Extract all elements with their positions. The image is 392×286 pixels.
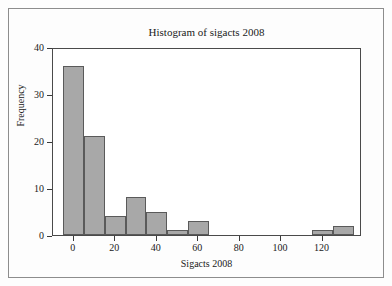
histogram-bar — [146, 212, 167, 236]
histogram-figure: Histogram of sigacts 2008 010203040 0204… — [0, 0, 392, 286]
x-axis-tick-label: 60 — [177, 243, 217, 253]
y-axis-tick-mark — [47, 236, 52, 237]
x-axis-tick-mark — [239, 236, 240, 241]
y-axis-tick-mark — [47, 142, 52, 143]
y-axis-label: Frequency — [15, 46, 26, 166]
y-axis-tick-mark — [47, 189, 52, 190]
histogram-bar — [333, 226, 354, 235]
x-axis-tick-label: 100 — [260, 243, 300, 253]
x-axis-tick-mark — [280, 236, 281, 241]
x-axis-tick-label: 0 — [53, 243, 93, 253]
y-axis-tick-label: 10 — [4, 184, 44, 194]
y-axis-tick-mark — [47, 95, 52, 96]
y-axis-tick-mark — [47, 48, 52, 49]
histogram-bar — [188, 221, 209, 235]
histogram-bar — [126, 197, 147, 235]
x-axis-label: Sigacts 2008 — [52, 258, 361, 269]
x-axis-tick-label: 80 — [219, 243, 259, 253]
x-axis-tick-mark — [156, 236, 157, 241]
x-axis-tick-label: 40 — [136, 243, 176, 253]
x-axis-tick-label: 20 — [94, 243, 134, 253]
histogram-bar — [312, 230, 333, 235]
x-axis-tick-mark — [322, 236, 323, 241]
y-axis-tick-label: 0 — [4, 231, 44, 241]
x-axis-tick-mark — [114, 236, 115, 241]
x-axis-tick-label: 120 — [302, 243, 342, 253]
plot-area — [52, 48, 361, 236]
x-axis-tick-mark — [197, 236, 198, 241]
histogram-bar — [105, 216, 126, 235]
x-axis-tick-mark — [73, 236, 74, 241]
histogram-bar — [84, 136, 105, 235]
histogram-bar — [167, 230, 188, 235]
histogram-bar — [63, 66, 84, 235]
chart-title: Histogram of sigacts 2008 — [52, 26, 361, 38]
bars-layer — [53, 49, 360, 235]
